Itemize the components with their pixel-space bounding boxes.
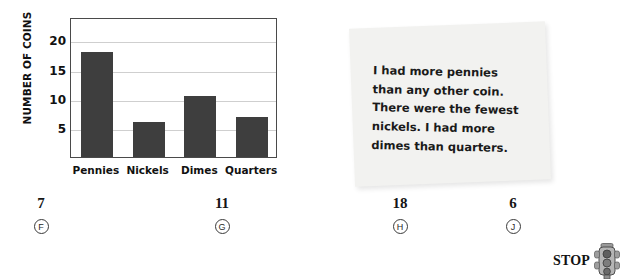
chart-y-axis-tick-labels: 5101520 <box>38 18 66 158</box>
chart-bars <box>71 19 276 157</box>
stop-marker: STOP <box>553 243 620 279</box>
chart-bar-pennies <box>81 52 113 157</box>
chart-y-axis-title: NUMBER OF COINS <box>21 0 33 138</box>
chart-y-tick-label: 20 <box>49 35 66 47</box>
chart-y-tick-label: 5 <box>58 123 66 135</box>
answer-choice-letter[interactable]: G <box>215 219 230 234</box>
answer-choice-value: 6 <box>483 196 543 211</box>
sticky-note-text: I had more penniesthan any other coin.Th… <box>371 61 537 158</box>
chart-bar-quarters <box>236 117 268 157</box>
chart-x-tick-label-dimes: Dimes <box>181 164 218 176</box>
chart-x-axis-tick-labels: PenniesNickelsDimesQuarters <box>62 164 284 180</box>
answer-choice-list: 7F11G18H6J <box>0 196 629 258</box>
answer-choice-value: 7 <box>11 196 71 211</box>
chart-bar-nickels <box>133 122 165 157</box>
sticky-note-line: dimes than quarters. <box>371 136 535 158</box>
chart-y-tick-label: 10 <box>49 94 66 106</box>
stop-label: STOP <box>553 253 590 269</box>
chart-x-tick-label-nickels: Nickels <box>126 164 168 176</box>
chart-plot-area <box>70 18 277 158</box>
answer-choice-g[interactable]: 11G <box>192 196 252 234</box>
answer-choice-letter[interactable]: J <box>506 219 521 234</box>
traffic-light-icon <box>594 243 620 279</box>
chart-bar-dimes <box>184 96 216 157</box>
answer-choice-h[interactable]: 18H <box>370 196 430 234</box>
answer-choice-value: 11 <box>192 196 252 211</box>
bar-chart-figure: NUMBER OF COINS 5101520 PenniesNickelsDi… <box>0 0 300 190</box>
chart-y-tick-label: 15 <box>49 65 66 77</box>
answer-choice-letter[interactable]: F <box>34 219 49 234</box>
chart-x-tick-label-pennies: Pennies <box>73 164 120 176</box>
answer-choice-f[interactable]: 7F <box>11 196 71 234</box>
answer-choice-j[interactable]: 6J <box>483 196 543 234</box>
answer-choice-letter[interactable]: H <box>393 219 408 234</box>
sticky-note: I had more penniesthan any other coin.Th… <box>349 21 551 186</box>
answer-choice-value: 18 <box>370 196 430 211</box>
chart-x-tick-label-quarters: Quarters <box>225 164 277 176</box>
